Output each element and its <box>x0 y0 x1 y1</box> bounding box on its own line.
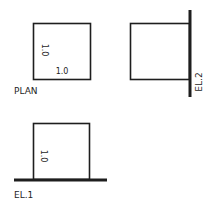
plan-bottom-dimension: 1.0 <box>56 67 69 76</box>
plan-title: PLAN <box>14 86 38 96</box>
plan-view: 1.0 1.0 PLAN <box>14 24 91 97</box>
elevation-1-title: EL.1 <box>14 190 33 200</box>
elevation-2-square <box>131 24 190 80</box>
elevation-2-view: EL.2 <box>131 10 205 97</box>
elevation-2-title: EL.2 <box>194 72 204 91</box>
elevation-1-view: 1.0 EL.1 <box>14 124 107 201</box>
plan-side-dimension: 1.0 <box>40 44 49 57</box>
elevation-1-side-dimension: 1.0 <box>39 150 48 163</box>
orthographic-views-diagram: 1.0 1.0 PLAN EL.2 1.0 EL.1 <box>0 0 216 212</box>
